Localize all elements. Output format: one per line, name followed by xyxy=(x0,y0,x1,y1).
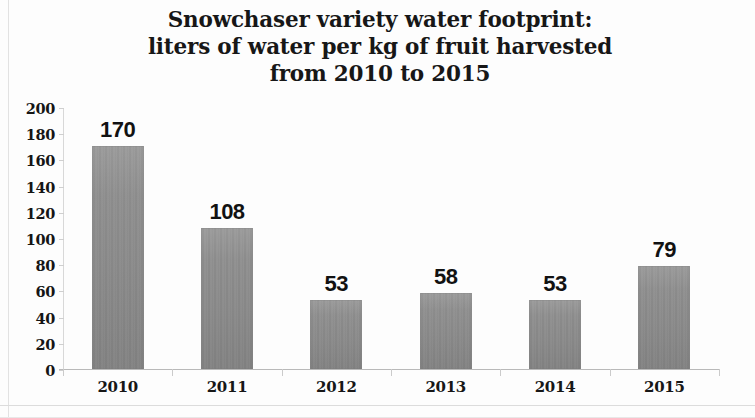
y-axis-tick-label: 60 xyxy=(7,283,55,300)
bar-value-label: 79 xyxy=(653,237,676,263)
x-axis-tick xyxy=(172,369,173,376)
y-axis-tick-label: 20 xyxy=(7,335,55,352)
y-axis-tick xyxy=(59,108,64,109)
x-axis-tick xyxy=(500,369,501,376)
x-axis-category-label: 2014 xyxy=(535,378,576,396)
bar-value-label: 108 xyxy=(209,199,244,225)
y-axis-tick-label: 160 xyxy=(7,152,55,169)
y-axis-tick xyxy=(59,344,64,345)
x-axis-category-label: 2015 xyxy=(644,378,685,396)
x-axis-tick xyxy=(391,369,392,376)
bar xyxy=(201,228,253,369)
bar-value-label: 58 xyxy=(434,264,457,290)
bar xyxy=(529,300,581,369)
y-axis-tick-label: 40 xyxy=(7,309,55,326)
y-axis-tick xyxy=(59,291,64,292)
y-axis-tick-label: 80 xyxy=(7,257,55,274)
y-axis-tick-label: 120 xyxy=(7,204,55,221)
x-axis-line xyxy=(59,369,719,370)
y-axis-tick xyxy=(59,239,64,240)
y-axis-tick xyxy=(59,160,64,161)
y-axis-tick xyxy=(59,187,64,188)
y-axis-tick-label: 140 xyxy=(7,178,55,195)
x-axis-category-label: 2013 xyxy=(425,378,466,396)
bar-value-label: 53 xyxy=(543,271,566,297)
bar xyxy=(420,293,472,369)
y-axis-tick-label: 180 xyxy=(7,126,55,143)
bar xyxy=(310,300,362,369)
y-axis-tick-label: 0 xyxy=(7,362,55,379)
y-axis-tick-label: 200 xyxy=(7,100,55,117)
y-axis-tick xyxy=(59,213,64,214)
y-axis-tick xyxy=(59,318,64,319)
x-axis-tick xyxy=(719,369,720,376)
x-axis-tick xyxy=(282,369,283,376)
bar xyxy=(638,266,690,369)
chart-title: Snowchaser variety water footprint: lite… xyxy=(60,6,700,87)
x-axis-category-label: 2010 xyxy=(97,378,138,396)
y-axis-tick xyxy=(59,265,64,266)
bar-value-label: 53 xyxy=(325,271,348,297)
x-axis-category-label: 2012 xyxy=(316,378,357,396)
x-axis-category-label: 2011 xyxy=(207,378,248,396)
page-border-bottom xyxy=(0,405,755,406)
bar-value-label: 170 xyxy=(100,117,135,143)
y-axis-tick xyxy=(59,134,64,135)
plot-area: 17010853585379 xyxy=(63,108,719,370)
x-axis-tick xyxy=(63,369,64,376)
bar xyxy=(92,146,144,369)
bar-chart-figure: Snowchaser variety water footprint: lite… xyxy=(0,0,755,418)
y-axis-tick-label: 100 xyxy=(7,231,55,248)
x-axis-tick xyxy=(610,369,611,376)
